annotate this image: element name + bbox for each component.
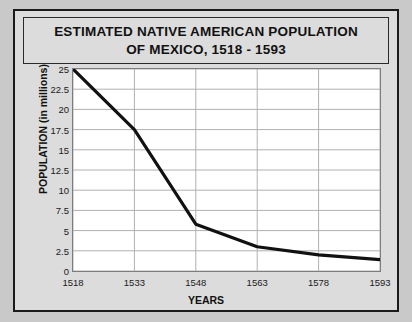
chart-title-box: ESTIMATED NATIVE AMERICAN POPULATION OF … (23, 17, 389, 64)
y-axis-label: POPULATION (in millions) (37, 39, 49, 219)
chart-title-line-2: OF MEXICO, 1518 - 1593 (126, 41, 286, 59)
y-axis-tick-label: 20 (58, 104, 69, 115)
x-axis-tick-label: 1578 (308, 277, 329, 288)
x-axis-tick-label: 1563 (247, 277, 268, 288)
y-axis-tick-label: 12.5 (51, 165, 70, 176)
plot-area: 02.557.51012.51517.52022.525 15181533154… (72, 68, 381, 272)
chart-title-line-1: ESTIMATED NATIVE AMERICAN POPULATION (54, 23, 358, 41)
y-axis-tick-label: 17.5 (51, 124, 70, 135)
x-axis-label: YEARS (15, 294, 397, 306)
x-axis-tick-label: 1533 (124, 277, 145, 288)
x-axis-tick-label: 1593 (369, 277, 390, 288)
y-axis-tick-label: 22.5 (51, 84, 70, 95)
y-axis-tick-label: 25 (58, 64, 69, 75)
y-axis-tick-label: 0 (64, 266, 69, 277)
x-axis-tick-label: 1548 (185, 277, 206, 288)
y-axis-tick-label: 7.5 (56, 205, 69, 216)
x-axis-tick-label: 1518 (62, 277, 83, 288)
chart-figure: ESTIMATED NATIVE AMERICAN POPULATION OF … (13, 9, 399, 312)
line-chart-svg (73, 69, 380, 271)
y-axis-tick-label: 15 (58, 144, 69, 155)
y-axis-tick-label: 2.5 (56, 245, 69, 256)
y-axis-tick-label: 5 (64, 225, 69, 236)
y-axis-tick-label: 10 (58, 185, 69, 196)
